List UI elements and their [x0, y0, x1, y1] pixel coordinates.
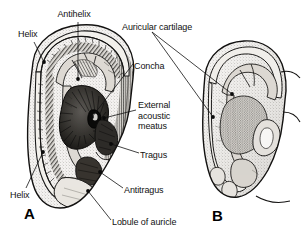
label-external-acoustic-meatus: External acoustic meatus — [138, 100, 170, 132]
label-concha: Concha — [134, 61, 164, 72]
label-tragus: Tragus — [140, 150, 167, 161]
panel-letter-b: B — [212, 207, 223, 224]
leader-cartilage-1-dot — [230, 92, 234, 96]
leader-helix-top-dot — [42, 60, 46, 64]
label-auricular-cartilage: Auricular cartilage — [122, 22, 192, 33]
label-helix-bottom: Helix — [10, 190, 30, 201]
label-antihelix: Antihelix — [57, 9, 90, 20]
leader-antitragus-dot — [98, 170, 102, 174]
leader-meatus-dot — [102, 116, 106, 120]
leader-helix-bottom-dot — [41, 150, 45, 154]
ear-anatomy-figure: AntihelixHelixAuricular cartilageConchaE… — [0, 0, 305, 247]
label-lobule-of-auricle: Lobule of auricle — [112, 217, 176, 228]
leader-cartilage-2-dot — [211, 115, 215, 119]
label-antitragus: Antitragus — [124, 185, 164, 196]
label-helix-top: Helix — [18, 29, 38, 40]
leader-antihelix-dot — [76, 77, 80, 81]
panel-letter-a: A — [24, 205, 35, 222]
leader-lobule-dot — [86, 189, 90, 193]
leader-concha-dot — [90, 115, 94, 119]
leader-tragus-dot — [109, 142, 113, 146]
